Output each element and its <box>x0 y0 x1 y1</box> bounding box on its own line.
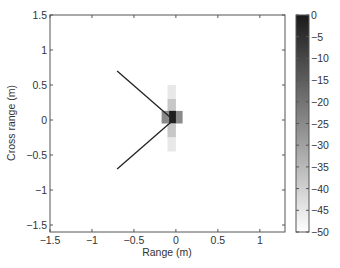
colorbar-tick-label: −10 <box>311 52 329 64</box>
colorbar-tick-label: −25 <box>311 118 329 130</box>
colorbar-tick-label: −45 <box>311 204 329 216</box>
colorbar-tick-label: −30 <box>311 139 329 151</box>
colorbar-tick-label: −35 <box>311 161 329 173</box>
colorbar-tick-label: −20 <box>311 96 329 108</box>
x-tick-label: −1.5 <box>40 234 61 246</box>
y-tick-label: 1.5 <box>32 9 47 21</box>
y-tick-label: 0 <box>41 114 47 126</box>
y-axis: 1.510.50−0.5−1−1.5 <box>26 9 285 231</box>
x-axis: −1.5−1−0.500.51 <box>40 15 263 246</box>
x-tick-label: 0.5 <box>211 234 226 246</box>
colorbar-tick-label: 0 <box>311 9 317 21</box>
trajectory-line <box>117 120 173 169</box>
colorbar-tick-label: −40 <box>311 183 329 195</box>
y-tick-label: 1 <box>41 44 47 56</box>
x-tick-label: 0 <box>173 234 179 246</box>
heatmap-cell <box>168 85 176 99</box>
chart: −1.5−1−0.500.51 1.510.50−0.5−1−1.5 Range… <box>0 0 340 268</box>
colorbar-tick-label: −5 <box>311 31 323 43</box>
x-tick-label: −1 <box>86 234 98 246</box>
heatmap-cell <box>168 124 176 138</box>
y-tick-label: −1 <box>35 184 47 196</box>
heatmap-cell <box>168 138 176 152</box>
y-tick-label: −1.5 <box>26 219 47 231</box>
x-tick-label: 1 <box>257 234 263 246</box>
y-tick-label: 0.5 <box>32 79 47 91</box>
colorbar-tick-label: −15 <box>311 74 329 86</box>
plot-area <box>117 71 182 169</box>
y-tick-label: −0.5 <box>26 149 47 161</box>
y-axis-label: Cross range (m) <box>5 85 17 161</box>
colorbar-tick-label: −50 <box>311 226 329 238</box>
trajectory-line <box>117 71 173 120</box>
x-axis-label: Range (m) <box>142 246 192 258</box>
colorbar: 0−5−10−15−20−25−30−35−40−45−50 <box>296 9 329 238</box>
x-tick-label: −0.5 <box>124 234 145 246</box>
